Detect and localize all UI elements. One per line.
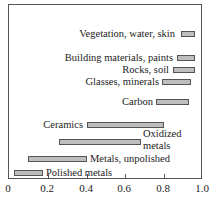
tick-0.4 xyxy=(87,174,88,178)
tick-label-0.2: 0.2 xyxy=(40,182,54,194)
bar-glasses xyxy=(162,79,191,85)
bar-rocks xyxy=(173,67,195,73)
tick-0.6 xyxy=(125,174,126,178)
tick-label-0.4: 0.4 xyxy=(79,182,93,194)
plot-area: Vegetation, water, skin Building materia… xyxy=(8,4,202,179)
label-metals-unpolished: Metals, unpolished xyxy=(90,154,170,164)
bar-polished-metals xyxy=(14,170,43,176)
bar-vegetation xyxy=(181,31,195,37)
tick-0.8 xyxy=(164,174,165,178)
tick-label-0.8: 0.8 xyxy=(156,182,170,194)
label-ceramics: Ceramics xyxy=(43,120,83,130)
label-polished-metals: Polished metals xyxy=(46,168,112,178)
bar-metals-unpolished xyxy=(28,156,87,162)
label-rocks: Rocks, soil xyxy=(122,65,169,75)
tick-label-0.6: 0.6 xyxy=(117,182,131,194)
label-oxidized-2: metals xyxy=(143,141,170,151)
tick-label-0: 0 xyxy=(5,182,11,194)
label-glasses: Glasses, minerals xyxy=(86,77,160,87)
bar-carbon xyxy=(156,99,189,105)
bar-building xyxy=(177,55,195,61)
label-building: Building materials, paints xyxy=(65,53,173,63)
label-vegetation: Vegetation, water, skin xyxy=(79,29,175,39)
bar-oxidized xyxy=(59,139,141,145)
label-carbon: Carbon xyxy=(122,97,153,107)
tick-0.2 xyxy=(48,174,49,178)
label-oxidized-1: Oxidized xyxy=(143,129,182,139)
tick-label-1.0: 1.0 xyxy=(195,182,209,194)
